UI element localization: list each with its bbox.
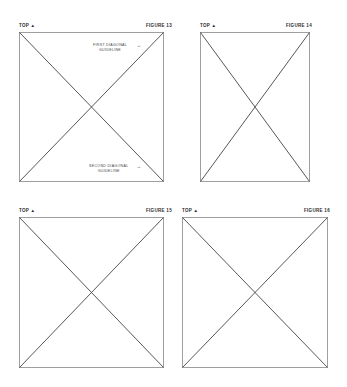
square-diagram xyxy=(182,217,328,368)
top-label: TOP ▲ xyxy=(200,23,216,28)
top-label: TOP ▲ xyxy=(182,208,198,213)
arrow-right-icon: → xyxy=(136,42,141,48)
arrow-right-icon: → xyxy=(136,163,141,169)
top-label: TOP ▲ xyxy=(19,208,35,213)
second-diagonal-annotation: SECOND DIAGONAL GUIDELINE xyxy=(89,164,128,174)
top-label: TOP ▲ xyxy=(19,23,35,28)
figure-label: FIGURE 16 xyxy=(304,208,330,213)
square-diagram xyxy=(19,217,164,368)
rectangle-diagram xyxy=(200,32,310,182)
square-diagram xyxy=(19,32,164,182)
first-diagonal-annotation: FIRST DIAGONAL GUIDELINE xyxy=(93,43,127,53)
figure-label: FIGURE 13 xyxy=(146,23,172,28)
figure-label: FIGURE 14 xyxy=(286,23,312,28)
figure-label: FIGURE 15 xyxy=(146,208,172,213)
